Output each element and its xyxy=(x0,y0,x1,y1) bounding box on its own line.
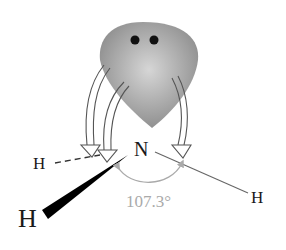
ammonia-diagram: N H H H 107.3° xyxy=(0,0,286,250)
bond-angle-arc xyxy=(118,163,182,182)
bond-angle-label: 107.3° xyxy=(126,192,171,211)
nitrogen-atom-label: N xyxy=(134,138,148,160)
lone-pair-electron-icon xyxy=(150,36,159,45)
dashed-bond xyxy=(55,155,100,163)
hydrogen-dashed-label: H xyxy=(33,154,45,173)
wedge-bond xyxy=(42,155,128,219)
hydrogen-wedge-label: H xyxy=(18,204,37,233)
hydrogen-line-label: H xyxy=(251,188,263,207)
plain-bond xyxy=(155,152,248,193)
lone-pair-electron-icon xyxy=(131,36,140,45)
repulsion-arrow-left-icon xyxy=(81,65,110,157)
